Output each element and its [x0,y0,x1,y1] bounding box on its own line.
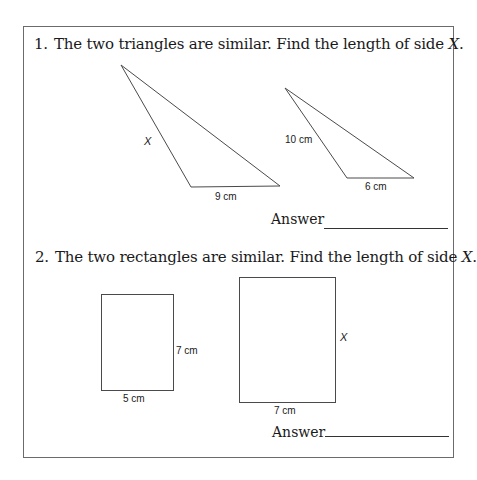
rectangle-large-width-label: 7 cm [274,405,296,416]
rectangle-small-height-label: 7 cm [176,345,198,356]
rectangle-small [102,295,174,391]
triangle-large-side-label: X [144,135,151,147]
rectangle-large [240,278,336,403]
triangle-small-side-label: 10 cm [285,134,312,145]
question-1-answer-field[interactable] [324,228,448,229]
question-2-text: The two rectangles are similar. Find the… [55,248,462,266]
triangle-large-base-label: 9 cm [215,191,237,202]
triangle-large [121,65,280,187]
triangle-small [285,88,414,178]
rectangle-large-height-label: X [340,331,347,343]
question-1-answer-label: Answer [271,211,324,227]
triangle-small-base-label: 6 cm [365,181,387,192]
question-2-answer-label: Answer [272,424,325,440]
question-2-variable: X [462,248,472,266]
rectangle-small-width-label: 5 cm [123,393,145,404]
question-2-prompt: 2.The two rectangles are similar. Find t… [35,248,477,266]
figures-canvas [0,0,477,480]
question-2-number: 2. [35,248,55,266]
question-2-answer-field[interactable] [325,436,449,437]
